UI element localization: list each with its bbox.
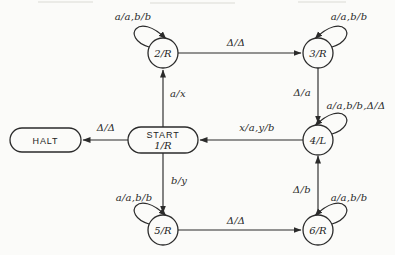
state-6-label: 6/R xyxy=(309,225,327,236)
state-4-label: 4/L xyxy=(309,135,327,146)
state-4-self-loop-label: a/a,b/b,Δ/Δ xyxy=(327,100,386,111)
state-2-self-loop-label: a/a,b/b xyxy=(115,11,152,22)
state-3-label: 3/R xyxy=(309,48,327,59)
transition-5-6-label: Δ/Δ xyxy=(226,215,246,226)
transition-6-4-label: Δ/b xyxy=(292,184,311,195)
transition-start-halt-label: Δ/Δ xyxy=(96,122,116,133)
state-5-self-loop-label: a/a,b/b xyxy=(116,192,153,203)
state-halt-label: HALT xyxy=(33,136,59,146)
transition-3-4-label: Δ/a xyxy=(293,87,311,98)
state-diagram: 2/R 3/R 4/L 5/R 6/R START 1/R HALT a/a,b… xyxy=(0,0,395,255)
transition-2-3-label: Δ/Δ xyxy=(226,37,246,48)
transition-4-start-label: x/a,y/b xyxy=(239,122,275,133)
diagram-canvas: 2/R 3/R 4/L 5/R 6/R START 1/R HALT a/a,b… xyxy=(0,0,395,255)
state-start-label-line1: START xyxy=(146,130,179,140)
scan-artifact xyxy=(38,1,346,4)
state-start-label-line2: 1/R xyxy=(154,140,172,151)
transition-start-2-label: a/x xyxy=(170,88,186,99)
state-5-label: 5/R xyxy=(154,225,172,236)
state-2-label: 2/R xyxy=(153,48,172,59)
state-6-self-loop-label: a/a,b/b xyxy=(331,192,368,203)
transition-start-5-label: b/y xyxy=(171,175,187,186)
state-3-self-loop-label: a/a,b/b xyxy=(331,11,368,22)
